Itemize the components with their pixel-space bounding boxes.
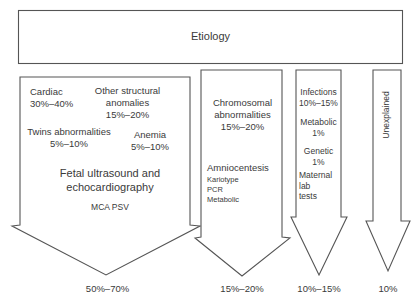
ultrasound-test-label: Fetal ultrasound and echocardiography xyxy=(45,167,175,195)
total-chromosomal: 15%–20% xyxy=(212,283,272,295)
metabolic-label: Metabolic 1% xyxy=(296,117,341,138)
total-unexplained: 10% xyxy=(370,283,406,295)
anemia-label: Anemia 5%–10% xyxy=(125,129,175,153)
chromosomal-label: Chromosomal abnormalities 15%–20% xyxy=(205,97,280,133)
mca-psv-label: MCA PSV xyxy=(70,202,150,213)
diagram-title: Etiology xyxy=(18,30,403,44)
infections-label: Infections 10%–15% xyxy=(296,87,341,108)
diagram-shapes xyxy=(0,0,420,300)
other-structural-label: Other structural anomalies 15%–20% xyxy=(90,85,165,121)
maternal-lab-tests-label: Maternal lab tests xyxy=(299,170,332,202)
genetic-label: Genetic 1% xyxy=(296,146,341,167)
twins-label: Twins abnormalities 5%–10% xyxy=(24,126,114,150)
amniocentesis-subtests: Kariotype PCR Metabolic xyxy=(207,175,239,205)
cardiac-label: Cardiac 30%–40% xyxy=(30,86,73,110)
amniocentesis-label: Amniocentesis xyxy=(207,162,269,174)
unexplained-label: Unexplained xyxy=(381,85,393,145)
total-structural: 50%–70% xyxy=(75,283,140,295)
total-infectious: 10%–15% xyxy=(290,283,348,295)
